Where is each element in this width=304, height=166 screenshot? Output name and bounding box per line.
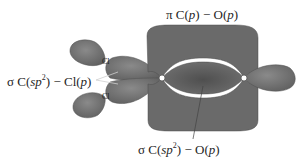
chlorine-top-label: Cl: [102, 58, 110, 66]
oxygen-atom-marker: [241, 75, 247, 81]
pi-bond-label: π C(p) − O(p): [166, 8, 238, 21]
carbon-atom-marker: [159, 75, 165, 81]
sigma-c-cl-label: σ C(sp2) − Cl(p): [7, 74, 91, 88]
sigma-c-o-lobe: [162, 62, 244, 94]
chlorine-bottom-label: Cl: [102, 93, 110, 101]
cl-top-p-lobe: [70, 40, 105, 66]
cl-bottom-p-lobe: [73, 93, 105, 118]
sigma-c-o-label: σ C(sp2) − O(p): [138, 142, 220, 156]
